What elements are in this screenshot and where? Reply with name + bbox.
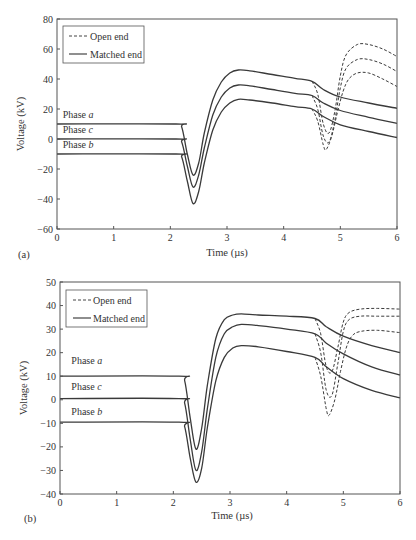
y-tick-label: −20 bbox=[40, 441, 56, 452]
phase-label: Phase b bbox=[71, 406, 102, 417]
y-axis-label: Voltage (kV) bbox=[15, 96, 27, 151]
x-axis-label: Time (µs) bbox=[211, 510, 253, 522]
y-tick-label: −60 bbox=[37, 224, 53, 235]
y-tick-label: −30 bbox=[40, 465, 56, 476]
x-tick-label: 5 bbox=[338, 232, 343, 243]
y-tick-label: 50 bbox=[46, 277, 56, 288]
y-tick-label: 20 bbox=[43, 104, 53, 115]
phase-label: Phase a bbox=[71, 355, 102, 366]
legend-label-matched-end: Matched end bbox=[93, 313, 145, 324]
x-tick-label: 0 bbox=[55, 232, 60, 243]
x-tick-label: 2 bbox=[168, 232, 173, 243]
phase-label: Phase c bbox=[71, 381, 102, 392]
series-line bbox=[312, 72, 397, 150]
chart-panel-a: 0123456−60−40−20020406080 Open end Match… bbox=[15, 14, 400, 262]
x-tick-label: 6 bbox=[398, 497, 403, 508]
phase-label: Phase c bbox=[63, 124, 94, 135]
y-tick-label: −40 bbox=[40, 489, 56, 500]
y-tick-label: 60 bbox=[43, 44, 53, 55]
phase-labels: Phase aPhase cPhase b bbox=[71, 355, 102, 417]
y-tick-label: −40 bbox=[37, 194, 53, 205]
y-tick-label: −20 bbox=[37, 164, 53, 175]
series-line bbox=[57, 99, 397, 204]
legend-label-open-end: Open end bbox=[93, 295, 132, 306]
series-line bbox=[57, 85, 397, 187]
x-tick-label: 6 bbox=[395, 232, 400, 243]
series-line bbox=[60, 346, 400, 483]
x-tick-label: 3 bbox=[228, 497, 233, 508]
phase-label: Phase b bbox=[63, 139, 94, 150]
x-tick-label: 0 bbox=[58, 497, 63, 508]
chart-panel-b: 0123456−40−30−20−1001020304050 Open end … bbox=[18, 277, 403, 526]
x-tick-label: 4 bbox=[284, 497, 289, 508]
panel-label: (a) bbox=[18, 249, 30, 261]
series-line bbox=[315, 330, 400, 416]
legend: Open end Matched end bbox=[66, 290, 147, 327]
y-tick-label: 0 bbox=[51, 394, 56, 405]
legend-label-matched-end: Matched end bbox=[90, 49, 142, 60]
x-tick-label: 5 bbox=[341, 497, 346, 508]
plot-lines bbox=[60, 308, 400, 482]
y-tick-label: 30 bbox=[46, 324, 56, 335]
y-axis-label: Voltage (kV) bbox=[18, 360, 30, 415]
series-line bbox=[57, 70, 397, 175]
y-tick-label: 80 bbox=[43, 14, 53, 25]
x-tick-label: 4 bbox=[281, 232, 286, 243]
y-tick-label: 10 bbox=[46, 371, 56, 382]
phase-labels: Phase aPhase cPhase b bbox=[63, 109, 94, 150]
series-line bbox=[60, 324, 400, 470]
x-tick-label: 2 bbox=[171, 497, 176, 508]
x-tick-label: 3 bbox=[225, 232, 230, 243]
x-tick-label: 1 bbox=[114, 497, 119, 508]
legend: Open end Matched end bbox=[63, 26, 144, 63]
x-tick-label: 1 bbox=[111, 232, 116, 243]
figure: 0123456−60−40−20020406080 Open end Match… bbox=[0, 0, 416, 540]
plot-lines bbox=[57, 44, 397, 204]
y-tick-label: 20 bbox=[46, 347, 56, 358]
panel-label: (b) bbox=[24, 513, 37, 525]
y-tick-label: 40 bbox=[46, 300, 56, 311]
y-tick-label: 40 bbox=[43, 74, 53, 85]
x-axis-label: Time (µs) bbox=[206, 247, 248, 259]
legend-label-open-end: Open end bbox=[90, 31, 129, 42]
phase-label: Phase a bbox=[63, 109, 94, 120]
y-tick-label: 0 bbox=[48, 134, 53, 145]
y-tick-label: −10 bbox=[40, 418, 56, 429]
